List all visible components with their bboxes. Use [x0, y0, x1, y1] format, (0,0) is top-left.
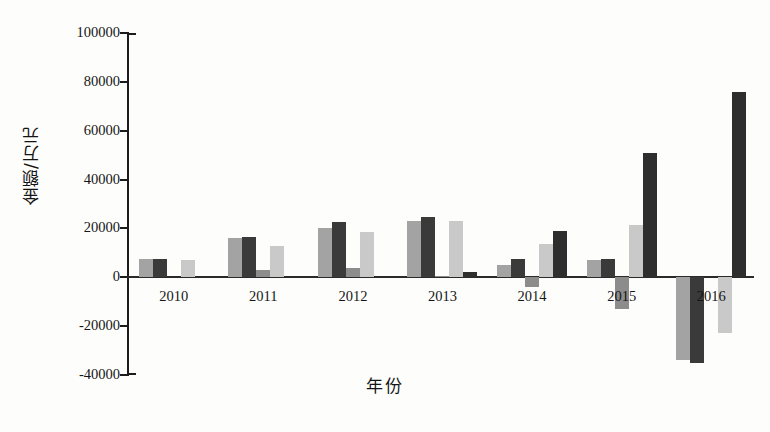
bar[interactable] — [718, 277, 732, 333]
x-axis-tick-label: 2012 — [308, 288, 398, 305]
bar-group — [666, 33, 756, 375]
y-axis-tick-label: 100000 — [52, 25, 120, 40]
bar[interactable] — [525, 277, 539, 287]
bar-group — [398, 33, 488, 375]
bar[interactable] — [601, 259, 615, 277]
y-axis-tick-label: 80000 — [52, 74, 120, 89]
bar[interactable] — [332, 222, 346, 277]
bar[interactable] — [318, 228, 332, 277]
x-axis-tick-label: 2015 — [577, 288, 667, 305]
plot-area — [129, 33, 756, 375]
bar[interactable] — [449, 221, 463, 277]
bar-group — [487, 33, 577, 375]
x-axis-tick-label: 2011 — [219, 288, 309, 305]
bar-group — [577, 33, 667, 375]
bar[interactable] — [629, 225, 643, 278]
x-axis-tick-label: 2016 — [666, 288, 756, 305]
y-axis-tick — [120, 130, 129, 132]
bar[interactable] — [139, 259, 153, 277]
bar[interactable] — [346, 268, 360, 278]
bar[interactable] — [511, 259, 525, 277]
y-axis-tick — [120, 179, 129, 181]
y-axis-tick-label: -20000 — [52, 318, 120, 333]
bar-group — [308, 33, 398, 375]
bar[interactable] — [153, 259, 167, 277]
bar[interactable] — [360, 232, 374, 277]
bar[interactable] — [732, 92, 746, 278]
bar[interactable] — [256, 270, 270, 277]
y-axis-tick — [120, 374, 129, 376]
bar[interactable] — [553, 231, 567, 277]
bar[interactable] — [407, 221, 421, 277]
bar[interactable] — [181, 260, 195, 277]
bar[interactable] — [228, 238, 242, 277]
bar-group — [129, 33, 219, 375]
x-axis-tick-label: 2010 — [129, 288, 219, 305]
y-axis-tick-label: 20000 — [52, 220, 120, 235]
y-axis-tick — [120, 81, 129, 83]
y-axis-tick-label: 0 — [52, 269, 120, 284]
bar[interactable] — [270, 246, 284, 278]
y-axis-tick — [120, 325, 129, 327]
bar-group — [219, 33, 309, 375]
bar[interactable] — [435, 276, 449, 278]
x-axis-tick-label: 2014 — [487, 288, 577, 305]
bar[interactable] — [421, 217, 435, 277]
bar[interactable] — [497, 265, 511, 277]
bar[interactable] — [463, 272, 477, 278]
y-axis-label: 金额/万元 — [18, 96, 44, 236]
y-axis-tick-label: 40000 — [52, 172, 120, 187]
bar[interactable] — [587, 260, 601, 277]
y-axis-tick — [120, 32, 129, 34]
bar[interactable] — [242, 237, 256, 277]
bar[interactable] — [643, 153, 657, 278]
y-axis-tick — [120, 227, 129, 229]
y-axis-tick-labels: 100000800006000040000200000-20000-40000 — [52, 0, 120, 432]
bar-chart: 金额/万元 年份 100000800006000040000200000-200… — [0, 0, 770, 432]
y-axis-tick-label: 60000 — [52, 123, 120, 138]
bar[interactable] — [539, 244, 553, 277]
x-axis-tick-label: 2013 — [398, 288, 488, 305]
y-axis-tick-label: -40000 — [52, 367, 120, 382]
